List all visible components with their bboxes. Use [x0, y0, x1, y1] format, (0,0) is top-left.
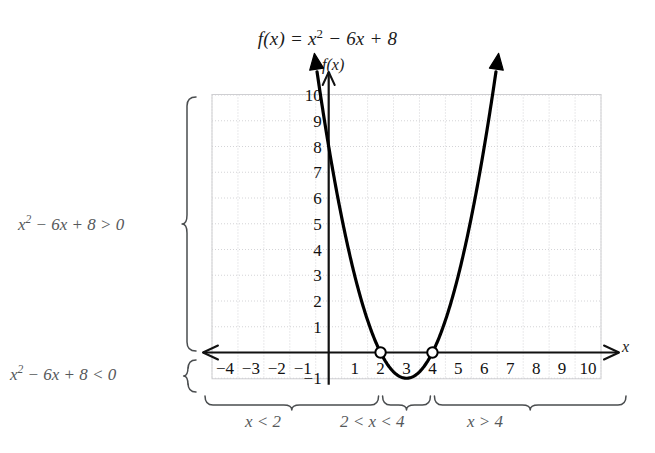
y-tick-label: 7 — [313, 163, 322, 182]
x-tick-label: 10 — [580, 359, 597, 378]
x-tick-label: 1 — [350, 359, 359, 378]
y-tick-label: 2 — [313, 292, 322, 311]
y-tick-label: 3 — [313, 266, 322, 285]
y-tick-label: 5 — [313, 215, 322, 234]
x-tick-label: −3 — [242, 359, 260, 378]
x-tick-label: 2 — [376, 359, 385, 378]
y-tick-label: 8 — [313, 138, 322, 157]
x-tick-label: −4 — [216, 359, 235, 378]
root-marker-open-circle — [375, 347, 385, 357]
y-tick-label: −1 — [304, 369, 322, 388]
y-tick-label: 1 — [313, 318, 322, 337]
x-tick-label: 5 — [454, 359, 463, 378]
function-curve — [310, 53, 504, 378]
y-tick-label: 6 — [313, 189, 322, 208]
x-tick-label: −2 — [268, 359, 286, 378]
plot-area: −4−3−2−11234567891010987654321−1 — [0, 0, 655, 453]
x-tick-label: 4 — [428, 359, 437, 378]
root-marker-open-circle — [427, 347, 437, 357]
x-tick-label: 8 — [532, 359, 541, 378]
x-tick-label: 9 — [558, 359, 567, 378]
x-tick-label: 3 — [402, 359, 411, 378]
tick-labels: −4−3−2−11234567891010987654321−1 — [216, 86, 597, 388]
graph-figure: f(x) = x2 − 6x + 8 f(x) x x2 − 6x + 8 > … — [0, 0, 655, 453]
axis-lines — [203, 72, 619, 385]
x-tick-label: 6 — [480, 359, 489, 378]
y-tick-label: 9 — [313, 112, 322, 131]
x-tick-label: 7 — [506, 359, 515, 378]
gridlines — [212, 94, 601, 378]
y-tick-label: 4 — [313, 241, 322, 260]
